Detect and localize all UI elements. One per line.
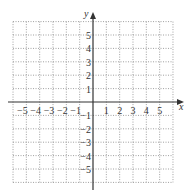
y-axis-arrow-icon	[90, 12, 96, 19]
y-axis-label: y	[83, 8, 89, 19]
y-tick-label: −5	[80, 164, 91, 175]
y-tick-label: −1	[80, 110, 91, 121]
y-tick-label: −2	[80, 124, 91, 135]
y-tick-label: −3	[80, 137, 91, 148]
x-tick-label: 3	[130, 105, 135, 116]
y-tick-label: 4	[86, 43, 91, 54]
y-tick-label: 3	[86, 57, 91, 68]
x-tick-label: −2	[57, 105, 68, 116]
x-tick-label: −5	[17, 105, 28, 116]
coordinate-plane: −5−4−3−2−112345 54321−1−2−3−4−5 x y	[0, 0, 188, 192]
axes	[8, 12, 184, 190]
x-tick-label: −4	[30, 105, 41, 116]
x-axis-label: x	[178, 101, 184, 112]
x-tick-label: 2	[117, 105, 122, 116]
x-tick-label: 4	[144, 105, 149, 116]
y-tick-label: 2	[86, 70, 91, 81]
y-tick-label: 5	[86, 30, 91, 41]
x-tick-label: 1	[104, 105, 109, 116]
y-tick-label: 1	[86, 84, 91, 95]
x-tick-label: 5	[157, 105, 162, 116]
x-tick-label: −3	[44, 105, 55, 116]
y-tick-label: −4	[80, 151, 91, 162]
